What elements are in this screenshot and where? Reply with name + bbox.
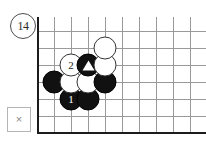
stone-move-number-label: 2 <box>68 60 74 71</box>
go-board[interactable]: 12 <box>37 17 206 134</box>
close-button[interactable]: × <box>7 107 31 132</box>
diagram-number-label: 14 <box>17 20 28 32</box>
stone-move-number-label: 1 <box>68 94 74 105</box>
white-stone-d[interactable] <box>94 37 117 60</box>
grid-line-vertical <box>139 17 140 134</box>
board-edge-bottom <box>37 132 206 134</box>
close-icon: × <box>16 114 22 125</box>
grid-line-vertical <box>156 17 157 134</box>
board-edge-left <box>37 17 39 134</box>
triangle-marker-icon <box>82 60 94 70</box>
grid-line-vertical <box>173 17 174 134</box>
diagram-number-badge: 14 <box>10 13 36 39</box>
grid-line-vertical <box>122 17 123 134</box>
go-diagram-screenshot: 14 × 12 <box>0 0 206 142</box>
grid-line-vertical <box>190 17 191 134</box>
